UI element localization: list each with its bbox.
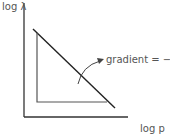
gradient-line: [33, 29, 115, 108]
annotation-arrow: [78, 61, 100, 84]
y-axis-label: log λ: [2, 2, 26, 12]
x-axis-label: log p: [140, 124, 165, 134]
diagram-canvas: [0, 0, 170, 138]
gradient-annotation: gradient = −1: [106, 55, 170, 65]
arrowhead-icon: [97, 58, 104, 64]
